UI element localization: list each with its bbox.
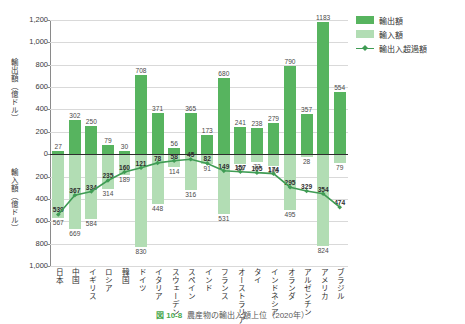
- x-axis-label: オランダ: [286, 268, 295, 300]
- x-axis-label: ドイツ: [137, 268, 146, 292]
- bar-export: [135, 75, 147, 154]
- x-axis-label: ブラジル: [336, 268, 345, 300]
- legend-swatch-import-icon: [356, 30, 374, 38]
- balance-value-label: 474: [320, 199, 360, 206]
- x-axis-label: インド: [203, 268, 212, 292]
- bar-import: [334, 154, 346, 163]
- x-axis-label: イタリア: [154, 268, 163, 300]
- balance-value-label: 174: [254, 166, 294, 173]
- legend-swatch-export-icon: [356, 16, 374, 24]
- plot-area: 2756730266925058479314301897088303714485…: [50, 20, 348, 266]
- bar-export: [251, 128, 263, 155]
- bar-group: 30189: [116, 20, 133, 266]
- y-tick-mark: [47, 266, 50, 267]
- bar-export: [301, 114, 313, 154]
- x-axis-label: 日本: [54, 268, 63, 284]
- x-axis-label: 韓国: [121, 268, 130, 284]
- y-tick-label: 1,000: [22, 262, 48, 270]
- bar-group: 365316: [182, 20, 199, 266]
- legend-label-import: 輸入額: [379, 29, 403, 40]
- balance-value-label: 82: [187, 155, 227, 162]
- bar-group: 790495: [282, 20, 299, 266]
- balance-value-label: 354: [303, 186, 343, 193]
- bar-export: [69, 120, 81, 154]
- y-tick-label: 400: [22, 105, 48, 113]
- x-axis-label: イギリス: [87, 268, 96, 300]
- figure-number: 図 10-8: [156, 311, 182, 320]
- bar-group: 35728: [298, 20, 315, 266]
- legend-item-import: 輸入額: [356, 28, 427, 40]
- bar-group: 708830: [133, 20, 150, 266]
- y-tick-label: 800: [22, 240, 48, 248]
- balance-value-label: 334: [71, 184, 111, 191]
- y-tick-label: 200: [22, 173, 48, 181]
- legend-line-marker-icon: [356, 44, 374, 52]
- bar-export: [234, 127, 246, 154]
- x-axis-label: ロシア: [104, 268, 113, 292]
- zero-axis-line: [50, 154, 348, 155]
- bar-export: [152, 113, 164, 154]
- bar-value-label-export: 554: [320, 84, 360, 91]
- x-axis-label: 中国: [71, 268, 80, 284]
- chart-legend: 輸出額 輸入額 輸出入超過額: [356, 14, 427, 56]
- bar-group: 56114: [166, 20, 183, 266]
- bar-export: [268, 123, 280, 154]
- y-tick-label: 0: [22, 150, 48, 158]
- x-axis-label: スペイン: [187, 268, 196, 300]
- balance-value-label: 235: [88, 172, 128, 179]
- figure-caption: 図 10-8農産物の輸出入額上位（2020年）: [0, 309, 465, 320]
- legend-label-export: 輸出額: [379, 15, 403, 26]
- bar-group: 17391: [199, 20, 216, 266]
- legend-item-balance: 輸出入超過額: [356, 42, 427, 54]
- y-axis-tick-labels: 1,2001,00080060040020002004006008001,000: [18, 0, 48, 322]
- bar-group: 302669: [67, 20, 84, 266]
- legend-label-balance: 輸出入超過額: [379, 43, 427, 54]
- x-axis-label: アメリカ: [319, 268, 328, 300]
- y-tick-label: 600: [22, 83, 48, 91]
- y-tick-label: 800: [22, 61, 48, 69]
- y-tick-label: 1,000: [22, 38, 48, 46]
- bar-export: [334, 92, 346, 154]
- x-axis-label: フランス: [220, 268, 229, 300]
- bar-import: [251, 154, 263, 162]
- balance-value-label: 539: [38, 206, 78, 213]
- bar-group: 1183824: [315, 20, 332, 266]
- y-tick-label: 1,200: [22, 16, 48, 24]
- gridline: [50, 266, 348, 267]
- bar-group: 55479: [331, 20, 348, 266]
- x-axis-label: タイ: [253, 268, 262, 284]
- bar-group: 23872: [249, 20, 266, 266]
- bar-group: 680531: [216, 20, 233, 266]
- figure-title: 農産物の輸出入額上位（2020年）: [187, 311, 309, 320]
- y-tick-label: 200: [22, 128, 48, 136]
- y-tick-label: 400: [22, 195, 48, 203]
- bar-export: [218, 78, 230, 154]
- bar-group: 24184: [232, 20, 249, 266]
- bar-value-label-import: 79: [320, 164, 360, 171]
- legend-item-export: 輸出額: [356, 14, 427, 26]
